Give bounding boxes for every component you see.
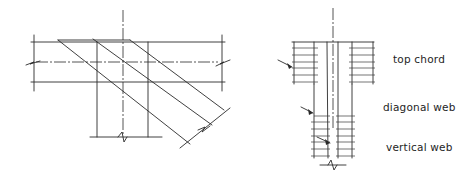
label-top-chord: top chord	[393, 53, 445, 65]
diagonal-web-cut-line	[180, 108, 230, 148]
arrow-top-chord-icon	[278, 60, 292, 69]
truss-diagram-canvas: top chord diagonal web vertical web	[0, 0, 468, 179]
right-truss-section-diagram	[278, 8, 375, 170]
web-inner-left	[327, 42, 328, 158]
label-diagonal-web: diagonal web	[383, 101, 456, 113]
diagonal-web-edge-1	[58, 40, 190, 144]
label-vertical-web: vertical web	[386, 141, 453, 153]
top-chord-right-hatch	[349, 48, 375, 82]
left-truss-plan-diagram	[26, 10, 230, 148]
break-symbol-left-icon	[26, 61, 40, 65]
break-symbol-diagonal-icon	[198, 126, 210, 132]
arrow-diagonal-web-icon	[301, 107, 313, 115]
break-symbol-right-icon	[216, 60, 230, 66]
